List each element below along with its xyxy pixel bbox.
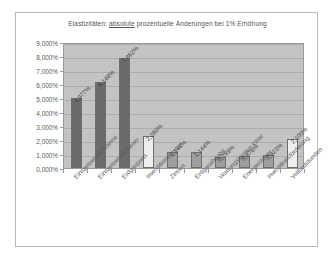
y-axis-tick-label: 1,000% (36, 152, 58, 159)
x-axis-tick-mark (304, 169, 305, 173)
gridline (64, 44, 303, 45)
x-axis-tick-mark (232, 169, 233, 173)
x-axis-tick-mark (159, 169, 160, 173)
x-axis-ticks (63, 169, 304, 174)
x-axis-tick-mark (87, 169, 88, 173)
y-axis-tick-label: 4,000% (36, 110, 58, 117)
x-axis-tick-mark (111, 169, 112, 173)
chart-title: Elastizitäten: absolute prozentuelle Änd… (16, 20, 319, 27)
gridline (64, 58, 303, 59)
y-axis: 9,000%8,000%7,000%6,000%5,000%4,000%3,00… (16, 43, 60, 169)
chart-title-underlined: absolute (109, 20, 135, 27)
y-axis-tick-label: 0,000% (36, 166, 58, 173)
gridline (64, 72, 303, 73)
x-axis-tick-mark (135, 169, 136, 173)
chart-title-before: Elastizitäten: (68, 20, 109, 27)
x-axis-tick-mark (208, 169, 209, 173)
chart-frame: Elastizitäten: absolute prozentuelle Änd… (15, 12, 318, 247)
y-axis-tick-label: 3,000% (36, 124, 58, 131)
y-axis-tick-label: 6,000% (36, 82, 58, 89)
bar (71, 98, 82, 168)
y-axis-tick-label: 5,000% (36, 96, 58, 103)
x-axis-tick-mark (184, 169, 185, 173)
x-axis-tick-mark (63, 169, 64, 173)
bar (95, 82, 106, 168)
y-axis-tick-label: 2,000% (36, 138, 58, 145)
bar (119, 58, 130, 168)
x-axis-tick-mark (280, 169, 281, 173)
plot-area: 4,977%6,148%7,862%2,280%1,144%1,144%0,78… (63, 43, 304, 169)
y-axis-tick-label: 7,000% (36, 68, 58, 75)
x-axis-tick-mark (256, 169, 257, 173)
y-axis-tick-label: 9,000% (36, 40, 58, 47)
chart-title-after: prozentuelle Änderungen bei 1% Erhöhung (135, 20, 267, 27)
y-axis-tick-label: 8,000% (36, 54, 58, 61)
